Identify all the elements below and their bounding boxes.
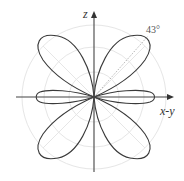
axes xyxy=(16,16,170,172)
lobe-lower-left xyxy=(38,97,94,159)
angle-label: 43° xyxy=(146,24,160,35)
z-axis-label: z xyxy=(82,7,88,21)
horizontal-axis-arrow-icon xyxy=(167,94,174,100)
lobe-lower-right xyxy=(94,97,150,159)
vertical-axis-arrow-icon xyxy=(91,11,97,18)
xy-axis-label: x-y xyxy=(159,104,175,118)
polar-diagram: z x-y 43° xyxy=(0,0,184,181)
lobe-upper-left xyxy=(38,35,94,97)
